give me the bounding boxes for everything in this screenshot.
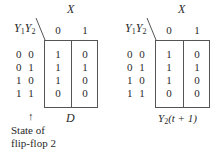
column-divider bbox=[183, 40, 184, 108]
column-variable-label: X bbox=[67, 3, 74, 15]
annotation-line-2: flip-flop 2 bbox=[11, 137, 56, 150]
row-label-01: 0 1 bbox=[16, 62, 36, 73]
up-arrow-icon: ↑ bbox=[28, 110, 34, 123]
cell-r1-c0: 1 bbox=[48, 62, 68, 73]
corner-diagonal-line bbox=[147, 18, 157, 42]
column-header-1: 1 bbox=[75, 25, 95, 36]
cell-r2-c1: 0 bbox=[75, 75, 95, 86]
row-label-01: 0 1 bbox=[127, 62, 147, 73]
cell-r0-c0: 1 bbox=[48, 49, 68, 60]
row-label-10: 1 0 bbox=[127, 75, 147, 86]
cell-r0-c1: 0 bbox=[187, 49, 207, 60]
column-header-0: 0 bbox=[48, 25, 68, 36]
row-label-00: 0 0 bbox=[127, 49, 147, 60]
cell-r3-c0: 0 bbox=[159, 88, 179, 99]
cell-r0-c1: 0 bbox=[75, 49, 95, 60]
row-label-10: 1 0 bbox=[16, 75, 36, 86]
cell-r1-c0: 1 bbox=[159, 62, 179, 73]
cell-r0-c0: 1 bbox=[159, 49, 179, 60]
row-variables-label: Y1Y2 bbox=[14, 22, 35, 38]
cell-r1-c1: 1 bbox=[187, 62, 207, 73]
column-header-0: 0 bbox=[159, 25, 179, 36]
cell-r3-c1: 0 bbox=[187, 88, 207, 99]
row-label-00: 0 0 bbox=[16, 49, 36, 60]
map-caption: Y2(t + 1) bbox=[158, 112, 197, 128]
cell-r3-c1: 0 bbox=[75, 88, 95, 99]
column-divider bbox=[71, 40, 72, 108]
row-label-11: 1 1 bbox=[16, 88, 36, 99]
column-header-1: 1 bbox=[187, 25, 207, 36]
row-label-11: 1 1 bbox=[127, 88, 147, 99]
cell-r2-c1: 0 bbox=[187, 75, 207, 86]
corner-diagonal-line bbox=[36, 18, 46, 42]
cell-r2-c0: 1 bbox=[48, 75, 68, 86]
column-variable-label: X bbox=[178, 3, 185, 15]
row-variables-label: Y1Y2 bbox=[125, 22, 146, 38]
cell-r3-c0: 0 bbox=[48, 88, 68, 99]
map-caption: D bbox=[66, 112, 75, 124]
annotation-line-1: State of bbox=[11, 124, 45, 137]
cell-r1-c1: 1 bbox=[75, 62, 95, 73]
cell-r2-c0: 1 bbox=[159, 75, 179, 86]
